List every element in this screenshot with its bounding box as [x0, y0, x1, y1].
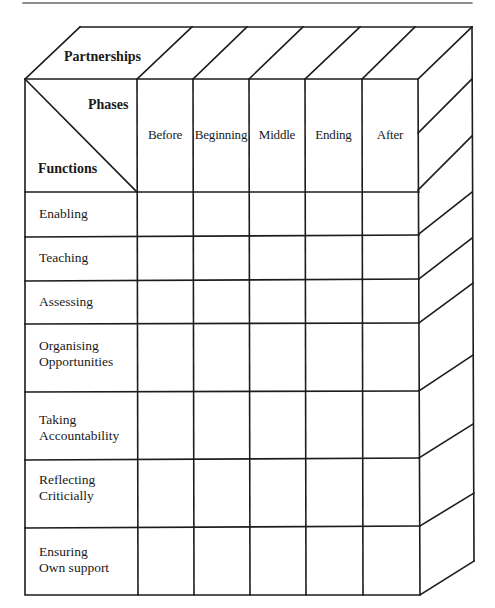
phases-axis-label: Phases	[88, 97, 128, 113]
function-row-enabling: Enabling	[39, 206, 88, 222]
function-label-line2: Opportunities	[39, 354, 113, 370]
function-row-taking-accountability: Taking Accountability	[39, 412, 119, 444]
side-face	[418, 27, 474, 595]
partnership-phases-functions-cube: Partnerships Phases Functions Before Beg…	[0, 0, 495, 608]
function-row-assessing: Assessing	[39, 294, 93, 310]
phase-header-ending: Ending	[305, 127, 362, 143]
front-face	[25, 79, 420, 595]
function-label-line2: Own support	[39, 560, 109, 576]
function-label-line1: Taking	[39, 412, 119, 428]
functions-axis-label: Functions	[38, 161, 97, 177]
function-row-teaching: Teaching	[39, 250, 88, 266]
phase-header-beginning: Beginning	[193, 127, 249, 143]
function-row-ensuring-own-support: Ensuring Own support	[39, 544, 109, 576]
function-label-line1: Teaching	[39, 250, 88, 266]
function-label-line1: Enabling	[39, 206, 88, 222]
function-label-line1: Reflecting	[39, 472, 95, 488]
partnerships-label: Partnerships	[64, 49, 141, 65]
phase-header-after: After	[362, 127, 418, 143]
function-label-line2: Accountability	[39, 428, 119, 444]
phase-header-middle: Middle	[249, 127, 305, 143]
function-row-reflecting-critically: Reflecting Criticially	[39, 472, 95, 504]
function-label-line1: Assessing	[39, 294, 93, 310]
phase-header-before: Before	[137, 127, 193, 143]
function-label-line2: Criticially	[39, 488, 95, 504]
function-label-line1: Ensuring	[39, 544, 109, 560]
function-label-line1: Organising	[39, 338, 113, 354]
function-row-organising-opportunities: Organising Opportunities	[39, 338, 113, 370]
